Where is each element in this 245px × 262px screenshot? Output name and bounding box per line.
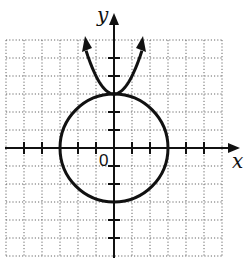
parabola-right-arrow-icon [136, 36, 146, 52]
y-axis-arrow-icon [109, 13, 119, 25]
coordinate-plane: y x 0 [0, 0, 245, 262]
parabola-left-arrow-icon [82, 36, 92, 52]
origin-label: 0 [99, 151, 108, 170]
x-axis-label: x [232, 149, 243, 173]
y-axis-label: y [96, 3, 109, 27]
